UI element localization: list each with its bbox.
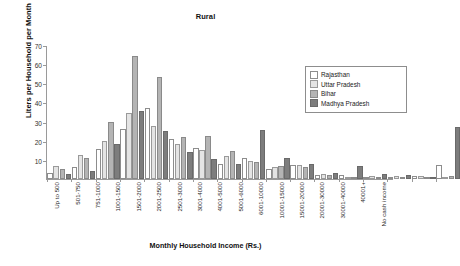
legend-label: Rajasthan — [321, 71, 350, 78]
y-axis-tick-mark — [43, 161, 46, 162]
bar-group — [169, 46, 193, 179]
bar-rajasthan — [339, 175, 344, 179]
x-axis-label-cell: 1501-2000 — [128, 182, 148, 240]
bar-madhya-pradesh — [333, 173, 338, 179]
bar-rajasthan — [169, 139, 174, 179]
bar-rajasthan — [96, 149, 101, 179]
bar-bihar — [449, 176, 454, 179]
bar-rajasthan — [193, 148, 198, 179]
x-axis-tick-label: 10001-15000 — [277, 182, 284, 218]
bar-rajasthan — [266, 169, 271, 179]
y-axis-tick-mark — [43, 142, 46, 143]
legend-label: Uttar Pradesh — [321, 81, 360, 88]
legend-item: Uttar Pradesh — [310, 80, 402, 90]
bar-madhya-pradesh — [139, 111, 144, 179]
x-axis-label-cell: 30001-40000 — [332, 182, 352, 240]
bar-bihar — [327, 175, 332, 179]
legend-label: Bihar — [321, 90, 336, 97]
bar-group — [266, 46, 290, 179]
bar-madhya-pradesh — [66, 174, 71, 179]
bar-uttar-pradesh — [369, 176, 374, 179]
x-axis-tick-label: 5001-6000 — [236, 182, 243, 212]
x-axis-tick-label: 1001-1500 — [114, 182, 121, 212]
bar-bihar — [205, 136, 210, 179]
legend-swatch-icon — [310, 71, 318, 79]
x-axis-label-cell: 20001-30000 — [311, 182, 331, 240]
bar-madhya-pradesh — [236, 164, 241, 179]
bar-bihar — [132, 56, 137, 179]
x-axis-label-cell: 2501-3000 — [168, 182, 188, 240]
x-axis-tick-mark — [412, 179, 413, 182]
bar-rajasthan — [120, 129, 125, 179]
bar-uttar-pradesh — [126, 113, 131, 179]
bar-uttar-pradesh — [442, 177, 447, 179]
bar-madhya-pradesh — [211, 159, 216, 179]
bar-rajasthan — [218, 164, 223, 179]
bar-uttar-pradesh — [248, 161, 253, 179]
bar-uttar-pradesh — [345, 177, 350, 179]
y-axis-tick-label: 40 — [35, 100, 42, 107]
x-axis-tick-label: 1501-2000 — [134, 182, 141, 212]
bar-bihar — [400, 177, 405, 179]
x-axis-tick-label: 751-1000 — [94, 182, 101, 208]
bar-group — [96, 46, 120, 179]
bar-madhya-pradesh — [284, 158, 289, 179]
y-axis-tick-mark — [43, 84, 46, 85]
bar-madhya-pradesh — [357, 166, 362, 179]
bar-bihar — [60, 169, 65, 179]
bar-madhya-pradesh — [406, 175, 411, 179]
x-axis-tick-label: 30001-40000 — [338, 182, 345, 218]
chart-title: Rural — [0, 12, 411, 21]
bar-rajasthan — [363, 177, 368, 179]
bar-uttar-pradesh — [102, 141, 107, 179]
bar-group — [412, 46, 436, 179]
x-axis-title: Monthly Household Income (Rs.) — [0, 241, 411, 250]
x-axis-label-cell: 501-750 — [66, 182, 86, 240]
bar-madhya-pradesh — [90, 171, 95, 179]
bar-group — [242, 46, 266, 179]
x-axis-tick-mark — [436, 179, 437, 182]
y-axis-tick-label: 60 — [35, 62, 42, 69]
x-axis-tick-label: No cash income — [379, 182, 386, 226]
bar-bihar — [376, 177, 381, 179]
x-axis-label-cell: Up to 500 — [46, 182, 66, 240]
bar-uttar-pradesh — [53, 166, 58, 179]
x-axis-tick-label: 15001-20000 — [298, 182, 305, 218]
bar-rajasthan — [436, 165, 441, 179]
x-axis-label-cell: 3001-4000 — [189, 182, 209, 240]
bar-bihar — [157, 77, 162, 179]
x-axis-label-cell: 2001-2500 — [148, 182, 168, 240]
legend: RajasthanUttar PradeshBiharMadhya Prades… — [305, 66, 407, 113]
x-axis-tick-label: 4001-5000 — [216, 182, 223, 212]
bar-group — [144, 46, 168, 179]
bar-bihar — [303, 167, 308, 179]
bar-group — [436, 46, 460, 179]
bar-group — [71, 46, 95, 179]
bar-rajasthan — [242, 158, 247, 179]
x-axis-label-cell: 6001-10000 — [250, 182, 270, 240]
y-axis-tick-mark — [43, 46, 46, 47]
x-axis-label-cell: 5001-6000 — [230, 182, 250, 240]
x-axis-label-cell: 751-1000 — [87, 182, 107, 240]
legend-swatch-icon — [310, 80, 318, 88]
bar-rajasthan — [72, 167, 77, 179]
y-axis-tick-label: 70 — [35, 43, 42, 50]
bar-uttar-pradesh — [418, 176, 423, 179]
bar-madhya-pradesh — [163, 131, 168, 179]
y-axis-tick-label: 50 — [35, 81, 42, 88]
bar-rajasthan — [388, 177, 393, 179]
bar-rajasthan — [290, 165, 295, 179]
bar-uttar-pradesh — [224, 156, 229, 179]
bar-uttar-pradesh — [394, 176, 399, 179]
x-axis-line — [46, 179, 393, 180]
bar-bihar — [278, 166, 283, 179]
legend-label: Madhya Pradesh — [321, 100, 369, 107]
bar-rajasthan — [315, 175, 320, 179]
legend-swatch-icon — [310, 99, 318, 107]
bar-group — [217, 46, 241, 179]
y-axis-tick-mark — [43, 103, 46, 104]
bar-madhya-pradesh — [260, 130, 265, 179]
bar-bihar — [424, 177, 429, 179]
x-axis-label-cell: 15001-20000 — [291, 182, 311, 240]
